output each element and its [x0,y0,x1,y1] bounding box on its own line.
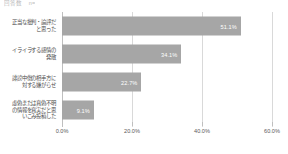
bar-chart: 回答数 n= 正当な批判・論評だと思った51.1%イライラする感情の発散34.1… [0,0,288,154]
tick-mark [202,122,203,126]
bar-value-label: 34.1% [161,51,177,57]
bar: 34.1% [62,45,181,64]
bar: 51.1% [62,17,241,36]
bar: 9.1% [62,101,94,120]
tick-mark [272,122,273,126]
x-tick-label: 40.0% [194,128,210,134]
x-tick-label: 0.0% [56,128,69,134]
plot-area: 正当な批判・論評だと思った51.1%イライラする感情の発散34.1%誹謗中傷の相… [0,12,288,134]
bar-row: 正当な批判・論評だと思った51.1% [0,12,288,40]
bar-row: 誹謗中傷の相手方に対する嫌がらせ22.7% [0,68,288,96]
category-label: 誹謗中傷の相手方に対する嫌がらせ [0,75,56,88]
bar-row: イライラする感情の発散34.1% [0,40,288,68]
x-tick-label: 60.0% [264,128,280,134]
category-label: イライラする感情の発散 [0,47,56,60]
bar-value-label: 22.7% [121,79,137,85]
response-count-note: 回答数 n= [4,0,35,7]
tick-mark [62,122,63,126]
x-axis: 0.0%20.0%40.0%60.0% [0,127,288,139]
category-label: 虚偽または真偽不明の情報を真実だと思いこみ投稿した [0,100,56,120]
bar-value-label: 51.1% [220,23,236,29]
x-tick-label: 20.0% [124,128,140,134]
tick-mark [132,122,133,126]
bar-value-label: 9.1% [77,107,90,113]
bar: 22.7% [62,73,141,92]
category-label: 正当な批判・論評だと思った [0,19,56,32]
bar-row: 虚偽または真偽不明の情報を真実だと思いこみ投稿した9.1% [0,96,288,124]
